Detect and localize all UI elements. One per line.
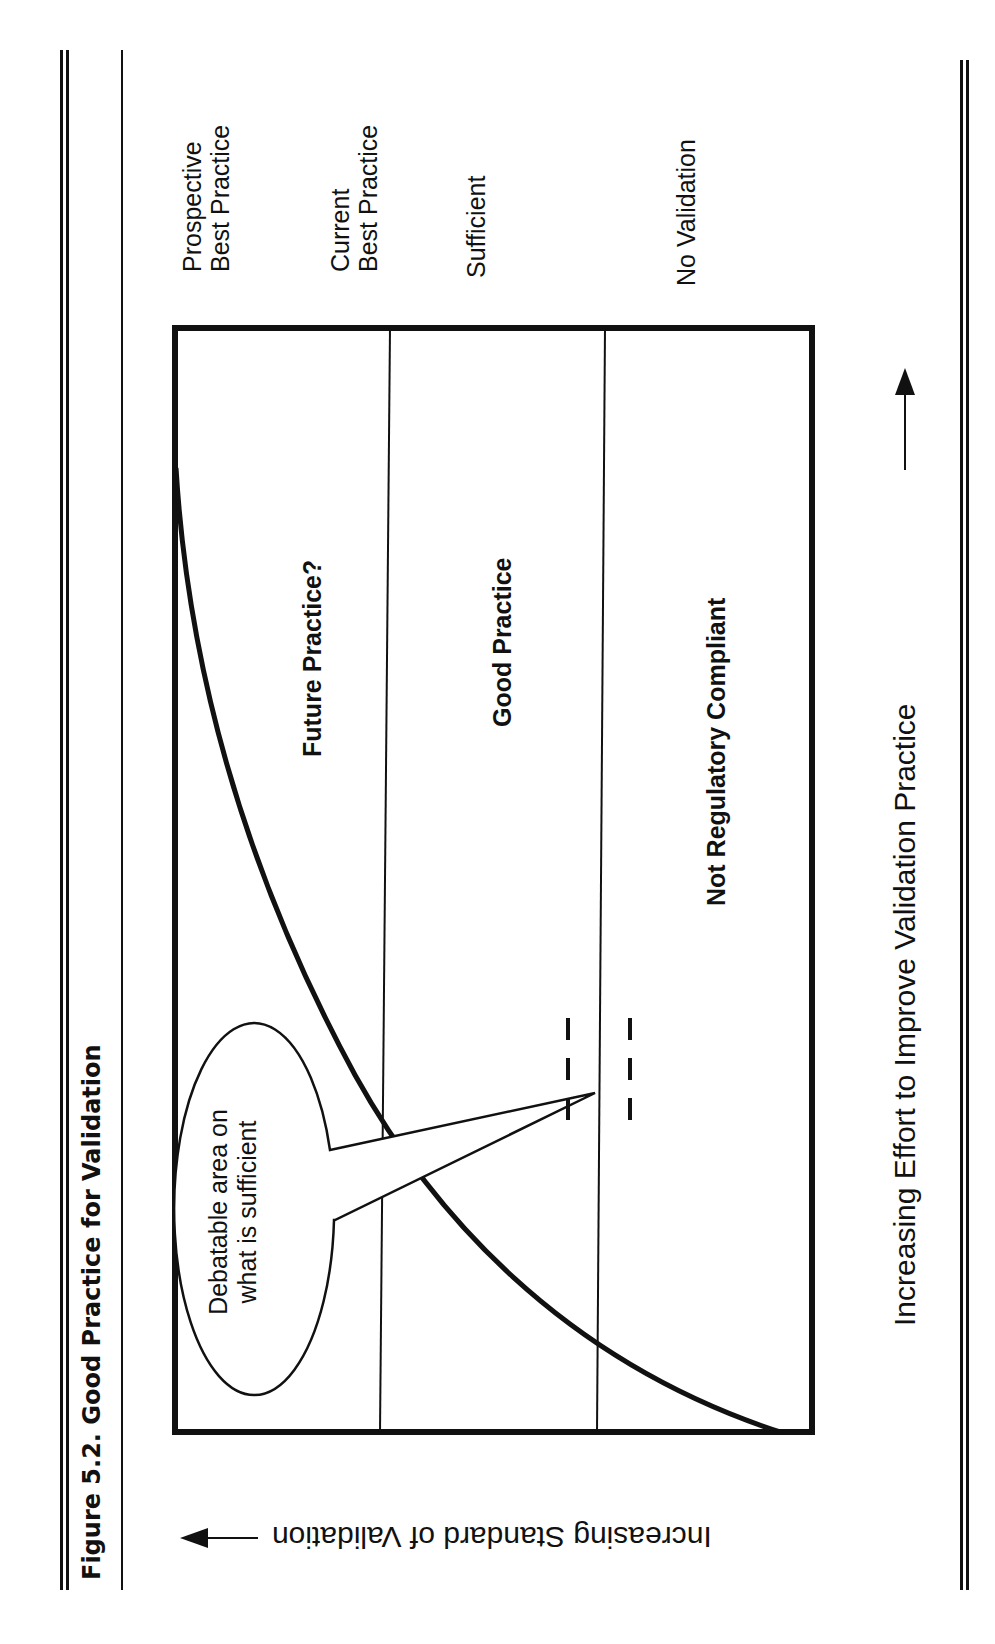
level-label-current: Current Best Practice bbox=[326, 125, 382, 272]
x-axis-label: Increasing Effort to Improve Validation … bbox=[888, 703, 922, 1326]
region-label-not-regulatory-compliant: Not Regulatory Compliant bbox=[702, 598, 731, 906]
level-label-sufficient: Sufficient bbox=[462, 176, 490, 278]
current-best-practice-line bbox=[380, 328, 390, 1432]
region-label-good-practice: Good Practice bbox=[488, 558, 517, 728]
sufficient-line bbox=[597, 328, 605, 1432]
level-label-prospective: Prospective Best Practice bbox=[178, 125, 234, 272]
y-axis-arrowhead bbox=[180, 1528, 208, 1548]
level-label-no-validation: No Validation bbox=[672, 139, 700, 286]
region-label-future-practice: Future Practice? bbox=[298, 560, 327, 757]
callout-text: Debatable area on what is sufficient bbox=[204, 1067, 262, 1357]
diagram-graphics bbox=[0, 0, 995, 1644]
y-axis-label: Increasing Standard of Validation bbox=[272, 1520, 712, 1554]
x-axis-arrowhead bbox=[895, 368, 915, 395]
